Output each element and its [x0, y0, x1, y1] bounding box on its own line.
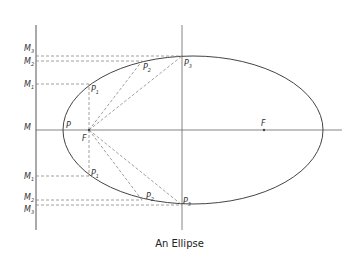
- focus-right-point: [263, 129, 265, 131]
- ellipse-diagram: M3 M2 M1 M M1 M2 M3 P F F P1 P2 P3 P1 P2…: [0, 0, 359, 268]
- svg-text:P2: P2: [146, 192, 154, 202]
- svg-text:M2: M2: [24, 57, 34, 67]
- svg-text:M3: M3: [24, 44, 34, 54]
- svg-text:P3: P3: [183, 197, 191, 207]
- svg-text:P: P: [66, 121, 71, 130]
- svg-text:M2: M2: [24, 193, 34, 203]
- svg-text:M: M: [24, 123, 31, 132]
- focus-left-point: [88, 129, 90, 131]
- svg-text:M1: M1: [24, 80, 34, 90]
- svg-text:P1: P1: [91, 169, 99, 179]
- svg-text:F: F: [261, 119, 266, 128]
- svg-text:M1: M1: [24, 172, 34, 182]
- svg-text:P1: P1: [91, 85, 99, 95]
- svg-text:M3: M3: [24, 205, 34, 215]
- svg-text:P3: P3: [184, 59, 192, 69]
- svg-text:P2: P2: [143, 63, 151, 73]
- svg-text:F: F: [82, 134, 87, 143]
- figure-caption: An Ellipse: [0, 238, 359, 249]
- dashed-projections: [36, 56, 182, 205]
